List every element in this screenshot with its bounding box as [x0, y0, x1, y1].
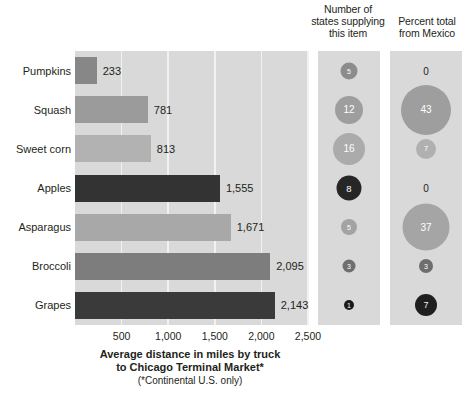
category-label: Sweet corn: [3, 143, 71, 155]
chart-figure: Number of states supplying this item Per…: [0, 0, 468, 399]
bar-value-label: 813: [157, 143, 175, 155]
x-tick-label: 500: [113, 330, 131, 342]
bar: [75, 253, 270, 280]
bubble: 3: [419, 259, 433, 273]
mexico-column-header: Percent total from Mexico: [388, 15, 466, 39]
bar-value-label: 233: [103, 65, 121, 77]
x-tick-label: 1,500: [202, 330, 228, 342]
x-axis-note: (*Continental U.S. only): [40, 375, 340, 386]
bar-value-label: 781: [154, 104, 172, 116]
bar: [75, 292, 275, 319]
states-column-header: Number of states supplying this item: [310, 3, 386, 40]
x-tick-label: 2,000: [248, 330, 274, 342]
category-label: Pumpkins: [3, 65, 71, 77]
bar: [75, 214, 231, 241]
x-tick-label: 1,000: [155, 330, 181, 342]
bubble: 7: [416, 139, 436, 159]
bubble: 8: [337, 176, 362, 201]
bubble: 3: [343, 260, 356, 273]
bubble: 7: [415, 294, 437, 316]
bubble: 43: [401, 85, 451, 135]
bar: [75, 135, 151, 162]
x-tick-label: 2,500: [295, 330, 321, 342]
bubble: 1: [344, 300, 354, 310]
bar: [75, 57, 97, 84]
category-label: Asparagus: [3, 221, 71, 233]
bubble: 5: [341, 62, 358, 79]
bubble: 37: [403, 204, 450, 251]
bar-value-label: 2,095: [276, 260, 304, 272]
bubble-zero-label: 0: [423, 65, 429, 76]
bubble: 16: [333, 133, 365, 165]
category-label: Grapes: [3, 299, 71, 311]
bar: [75, 96, 148, 123]
gridline-2000: [261, 51, 263, 325]
category-label-column: PumpkinsSquashSweet cornApplesAsparagusB…: [0, 0, 71, 399]
bubble: 5: [341, 219, 357, 235]
x-axis-title: Average distance in miles by truck to Ch…: [40, 348, 340, 374]
bar-value-label: 1,555: [226, 182, 254, 194]
bubble-zero-label: 0: [423, 183, 429, 194]
category-label: Broccoli: [3, 260, 71, 272]
x-axis-title-line1: Average distance in miles by truck: [40, 348, 340, 361]
bubble: 12: [335, 96, 363, 124]
category-label: Apples: [3, 182, 71, 194]
bar: [75, 175, 220, 202]
gridline-2500: [307, 51, 309, 325]
category-label: Squash: [3, 104, 71, 116]
x-axis-title-line2: to Chicago Terminal Market*: [40, 361, 340, 374]
bar-value-label: 2,143: [281, 299, 309, 311]
bar-value-label: 1,671: [237, 221, 265, 233]
